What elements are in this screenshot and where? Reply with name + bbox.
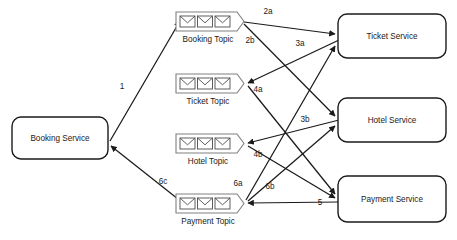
topic-payment-topic[interactable]: Payment Topic xyxy=(176,194,244,226)
edge-2a xyxy=(244,22,335,34)
service-label: Payment Service xyxy=(361,195,423,204)
topic-caption: Payment Topic xyxy=(181,217,235,226)
topics-layer: Booking TopicTicket TopicHotel TopicPaym… xyxy=(176,12,244,226)
edge-label-6c: 6c xyxy=(159,177,168,186)
service-hotel[interactable]: Hotel Service xyxy=(338,98,446,142)
topic-hotel-topic[interactable]: Hotel Topic xyxy=(176,134,244,166)
topic-ticket-topic[interactable]: Ticket Topic xyxy=(176,74,244,106)
topic-caption: Ticket Topic xyxy=(187,97,230,106)
service-label: Hotel Service xyxy=(368,116,417,125)
edges-layer xyxy=(110,21,339,203)
edge-label-4a: 4a xyxy=(253,85,263,94)
services-layer: Booking ServiceTicket ServiceHotel Servi… xyxy=(12,14,446,222)
edge-label-3a: 3a xyxy=(295,39,305,48)
service-ticket[interactable]: Ticket Service xyxy=(338,14,446,58)
edge-label-6b: 6b xyxy=(265,182,275,191)
edge-label-3b: 3b xyxy=(300,115,310,124)
edge-6c xyxy=(111,146,178,199)
edge-5 xyxy=(248,202,339,203)
edge-label-4b: 4b xyxy=(253,150,263,159)
edge-label-2a: 2a xyxy=(263,7,273,16)
service-payment[interactable]: Payment Service xyxy=(338,176,446,222)
edge-label-2b: 2b xyxy=(245,36,255,45)
edge-1 xyxy=(110,21,180,141)
service-label: Booking Service xyxy=(30,134,90,143)
service-label: Ticket Service xyxy=(366,32,418,41)
topic-caption: Booking Topic xyxy=(183,35,234,44)
edge-3b xyxy=(248,120,339,143)
edge-label-1: 1 xyxy=(120,82,125,91)
topic-booking-topic[interactable]: Booking Topic xyxy=(176,12,244,44)
diagram-canvas: Booking TopicTicket TopicHotel TopicPaym… xyxy=(0,0,457,240)
edge-label-5: 5 xyxy=(318,198,323,207)
topic-caption: Hotel Topic xyxy=(188,157,228,166)
diagram-svg: Booking TopicTicket TopicHotel TopicPaym… xyxy=(0,0,457,240)
edge-label-6a: 6a xyxy=(233,179,243,188)
service-booking[interactable]: Booking Service xyxy=(12,117,108,159)
